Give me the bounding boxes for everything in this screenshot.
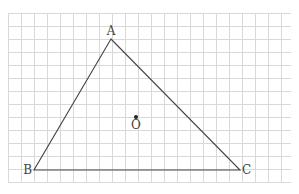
triangle-diagram: A B C O xyxy=(0,0,299,194)
vertex-label-a: A xyxy=(106,24,116,38)
vertex-label-b: B xyxy=(23,163,32,177)
grid-paper xyxy=(8,13,291,183)
vertex-label-c: C xyxy=(242,163,251,177)
point-label-o: O xyxy=(131,118,141,132)
